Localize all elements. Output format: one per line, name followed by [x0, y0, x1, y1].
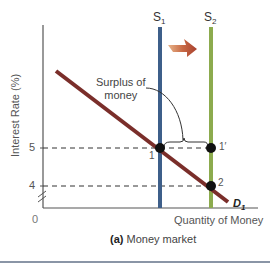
surplus-leader-line	[146, 88, 183, 140]
s1-label-main: S	[153, 10, 161, 24]
s2-label-sub: 2	[212, 17, 216, 26]
chart-caption: (a) Money market	[110, 233, 196, 245]
d1-label-main: D	[233, 197, 241, 209]
money-market-diagram	[0, 0, 270, 267]
caption-text: Money market	[127, 233, 197, 245]
axis-break-icon	[38, 191, 46, 202]
y-tick-label-5: 5	[29, 141, 35, 153]
y-tick-label-4: 4	[29, 179, 35, 191]
point-1	[155, 143, 165, 153]
point-2	[206, 181, 216, 191]
point-1-label: 1	[149, 150, 155, 161]
surplus-brace	[164, 138, 208, 147]
d1-label-sub: 1	[241, 203, 245, 212]
surplus-line-1: Surplus of	[96, 76, 146, 89]
s2-label: S2	[204, 10, 216, 26]
y-axis-label: Interest Rate (%)	[9, 79, 21, 157]
shift-right-arrow-icon	[168, 39, 197, 57]
caption-bold: (a)	[110, 233, 123, 245]
s2-label-main: S	[204, 10, 212, 24]
surplus-annotation: Surplus of money	[96, 76, 146, 102]
x-axis-label: Quantity of Money	[174, 214, 263, 226]
origin-label: 0	[32, 213, 38, 225]
point-2-label: 2	[218, 177, 224, 188]
point-1-prime	[206, 143, 216, 153]
s1-label: S1	[153, 10, 165, 26]
d1-label: D1	[233, 197, 245, 212]
s1-label-sub: 1	[161, 17, 165, 26]
point-1-prime-label: 1′	[219, 141, 226, 152]
bottom-divider	[0, 261, 270, 263]
surplus-line-2: money	[96, 89, 146, 102]
